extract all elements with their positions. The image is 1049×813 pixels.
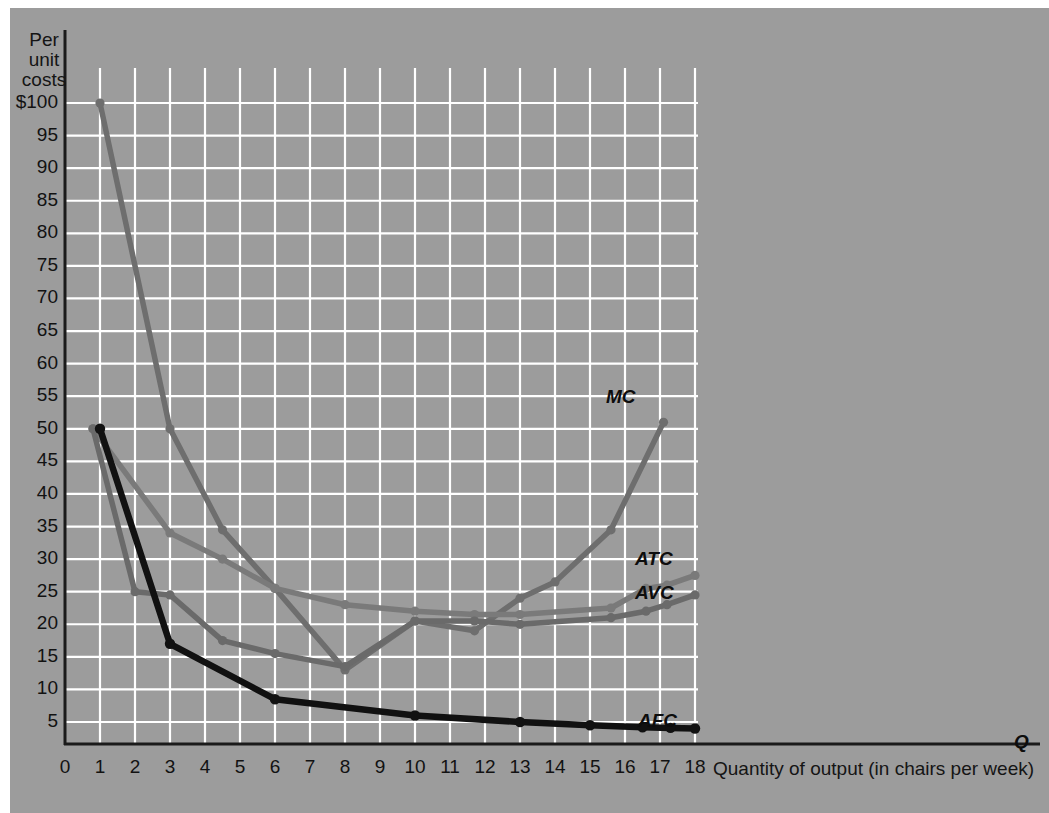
y-tick-label: 75	[10, 254, 58, 276]
data-point-afc	[515, 717, 525, 727]
data-point-mc	[550, 577, 559, 586]
data-point-avc	[340, 662, 349, 671]
data-point-atc	[218, 555, 227, 564]
data-point-afc	[270, 694, 280, 704]
x-tick-label: 4	[190, 756, 220, 778]
data-point-atc	[165, 528, 174, 537]
y-tick-label: 70	[10, 286, 58, 308]
x-tick-label: 3	[155, 756, 185, 778]
y-tick-label: 45	[10, 449, 58, 471]
data-point-atc	[410, 607, 419, 616]
data-point-avc	[641, 607, 650, 616]
y-tick-label: 25	[10, 580, 58, 602]
x-tick-label: 7	[295, 756, 325, 778]
y-tick-label: $100	[10, 91, 58, 113]
y-tick-label: 55	[10, 384, 58, 406]
data-point-avc	[606, 613, 615, 622]
data-point-atc	[270, 584, 279, 593]
y-axis-title-line: unit	[18, 50, 70, 70]
y-tick-label: 35	[10, 515, 58, 537]
x-tick-label: 0	[50, 756, 80, 778]
x-tick-label: 5	[225, 756, 255, 778]
y-tick-label: 5	[10, 710, 58, 732]
x-tick-label: 18	[680, 756, 710, 778]
data-point-avc	[470, 616, 479, 625]
series-afc	[95, 424, 700, 734]
x-tick-label: 15	[575, 756, 605, 778]
data-point-mc	[95, 98, 104, 107]
data-point-afc	[585, 720, 595, 730]
x-tick-label: 6	[260, 756, 290, 778]
y-tick-label: 15	[10, 645, 58, 667]
x-tick-label: 11	[435, 756, 465, 778]
x-tick-label: 14	[540, 756, 570, 778]
data-point-avc	[165, 590, 174, 599]
data-point-avc	[130, 587, 139, 596]
y-tick-label: 20	[10, 612, 58, 634]
data-point-avc	[410, 616, 419, 625]
y-tick-label: 80	[10, 221, 58, 243]
y-tick-label: 90	[10, 156, 58, 178]
data-point-avc	[515, 620, 524, 629]
data-point-avc	[690, 590, 699, 599]
y-tick-label: 30	[10, 547, 58, 569]
x-tick-label: 9	[365, 756, 395, 778]
y-axis-title: Perunitcosts	[18, 30, 70, 90]
x-tick-label: 2	[120, 756, 150, 778]
y-axis-title-line: Per	[18, 30, 70, 50]
y-tick-label: 85	[10, 189, 58, 211]
data-point-atc	[606, 603, 615, 612]
x-tick-label: 17	[645, 756, 675, 778]
curve-label-atc: ATC	[635, 548, 673, 570]
data-point-avc	[218, 636, 227, 645]
curve-label-mc: MC	[606, 386, 636, 408]
x-tick-label: 13	[505, 756, 535, 778]
data-point-atc	[690, 571, 699, 580]
data-point-mc	[218, 525, 227, 534]
data-point-mc	[165, 424, 174, 433]
y-tick-label: 60	[10, 352, 58, 374]
y-tick-label: 10	[10, 677, 58, 699]
y-tick-label: 50	[10, 417, 58, 439]
x-tick-label: 12	[470, 756, 500, 778]
curve-label-avc: AVC	[635, 582, 674, 604]
y-tick-label: 40	[10, 482, 58, 504]
y-tick-label: 95	[10, 124, 58, 146]
data-point-atc	[515, 610, 524, 619]
x-tick-label: 10	[400, 756, 430, 778]
data-point-mc	[515, 594, 524, 603]
data-point-afc	[690, 723, 700, 733]
series-mc	[95, 98, 668, 674]
curve-line-afc	[100, 429, 695, 729]
x-tick-label: 1	[85, 756, 115, 778]
data-point-mc	[470, 626, 479, 635]
curve-line-mc	[100, 103, 664, 670]
x-axis-title: Quantity of output (in chairs per week)	[713, 758, 1034, 780]
data-point-afc	[165, 639, 175, 649]
y-axis-title-line: costs	[18, 70, 70, 90]
curve-line-avc	[93, 429, 695, 667]
x-tick-label: 16	[610, 756, 640, 778]
x-tick-label: 8	[330, 756, 360, 778]
cost-curves-figure: Perunitcosts Quantity of output (in chai…	[10, 8, 1049, 813]
data-point-afc	[95, 424, 105, 434]
chart-canvas	[10, 8, 1049, 813]
data-point-atc	[340, 600, 349, 609]
data-point-mc	[606, 525, 615, 534]
data-point-afc	[410, 710, 420, 720]
data-point-avc	[270, 649, 279, 658]
curve-label-afc: AFC	[638, 710, 677, 732]
x-axis-marker: Q	[1014, 731, 1029, 753]
data-point-mc	[659, 418, 668, 427]
y-tick-label: 65	[10, 319, 58, 341]
